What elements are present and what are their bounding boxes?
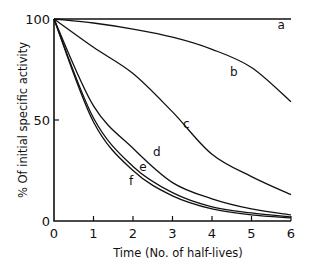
x-tick-label: 4 [208,226,216,241]
x-axis-title: Time (No. of half-lives) [112,246,243,260]
x-tick-label: 5 [247,226,255,241]
curve-f [54,19,291,218]
curve-d [54,19,291,215]
curve-c [54,19,291,195]
x-tick-label: 3 [168,226,176,241]
y-axis-title: % Of initial specific activity [16,42,30,198]
y-tick-label: 50 [33,113,50,128]
plot-area: abcdef [54,18,291,218]
x-tick-label: 0 [50,226,58,241]
x-tick-label: 2 [129,226,137,241]
axis-lines [54,19,291,221]
curve-label-d: d [153,145,161,159]
y-tick-label: 0 [42,214,50,229]
curve-label-b: b [230,65,238,79]
curve-b [54,19,291,102]
y-tick-label: 100 [25,12,50,27]
curve-label-a: a [277,18,284,32]
curve-label-e: e [139,160,146,174]
curve-label-f: f [129,174,134,188]
axes [54,19,291,221]
curve-label-c: c [183,117,190,131]
x-tick-label: 1 [89,226,97,241]
x-tick-label: 6 [287,226,295,241]
curve-e [54,19,291,217]
decay-chart: abcdef 0123456050100 Time (No. of half-l… [0,0,309,272]
